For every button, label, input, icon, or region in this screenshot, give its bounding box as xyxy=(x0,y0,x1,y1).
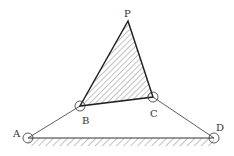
label-p: P xyxy=(124,8,131,19)
label-d: D xyxy=(216,122,224,133)
coupler-triangle xyxy=(80,21,153,106)
label-c: C xyxy=(150,108,158,119)
link-cd xyxy=(153,97,214,138)
label-b: B xyxy=(82,115,89,126)
label-a: A xyxy=(12,128,21,139)
ground-hatching xyxy=(28,138,214,146)
link-ab xyxy=(28,106,80,138)
linkage-diagram: P A B C D xyxy=(0,0,234,156)
